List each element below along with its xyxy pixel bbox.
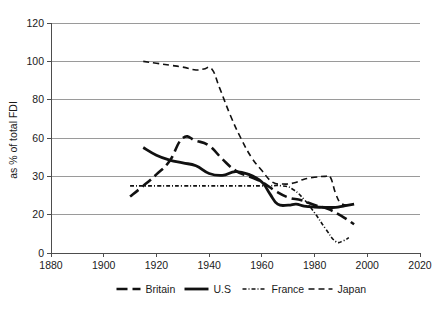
x-axis-tick-labels: 18801900192019401960198020002020 xyxy=(39,259,432,271)
y-tick-label: 80 xyxy=(32,93,44,105)
plot-series-group xyxy=(130,61,354,242)
x-tick-label: 1880 xyxy=(39,259,63,271)
legend-label-us: U.S xyxy=(214,283,232,295)
x-tick-label: 1920 xyxy=(145,259,169,271)
axes xyxy=(47,23,420,257)
legend-label-japan: Japan xyxy=(338,283,367,295)
x-tick-label: 1900 xyxy=(92,259,116,271)
series-line-britain xyxy=(130,136,354,224)
y-tick-label: 30 xyxy=(32,170,44,182)
series-line-japan xyxy=(143,61,349,205)
x-tick-label: 2000 xyxy=(356,259,380,271)
x-tick-label: 1940 xyxy=(197,259,221,271)
legend-label-britain: Britain xyxy=(146,283,176,295)
y-tick-label: 120 xyxy=(26,17,44,29)
y-tick-label: 60 xyxy=(32,132,44,144)
x-tick-label: 1980 xyxy=(303,259,327,271)
y-tick-label: 0 xyxy=(38,247,44,259)
y-tick-label: 20 xyxy=(32,208,44,220)
y-axis-tick-labels: 020306080100120 xyxy=(26,17,44,259)
series-line-france xyxy=(130,186,349,243)
chart-legend: BritainU.SFranceJapan xyxy=(117,283,367,295)
legend-label-france: France xyxy=(272,283,305,295)
y-axis-title: as % of total FDI xyxy=(7,101,19,179)
y-tick-label: 100 xyxy=(26,55,44,67)
series-line-us xyxy=(143,148,354,208)
x-tick-label: 2020 xyxy=(408,259,432,271)
chart-container: 020306080100120 188019001920194019601980… xyxy=(0,0,445,309)
x-tick-label: 1960 xyxy=(250,259,274,271)
line-chart: 020306080100120 188019001920194019601980… xyxy=(0,0,445,309)
